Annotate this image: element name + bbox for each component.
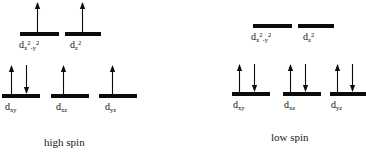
electron-arrow-up xyxy=(235,64,244,92)
orbital-label-dx2-y2: dx2-y2 xyxy=(251,32,271,45)
orbital-label-dz2: dz2 xyxy=(303,32,314,42)
orbital-label-dxz: dxz xyxy=(284,100,295,110)
orbital-label-dyz: dyz xyxy=(331,100,342,110)
electron-arrow-down xyxy=(301,64,310,92)
electron-arrow-up xyxy=(333,64,342,92)
energy-level-bar-dz2 xyxy=(298,24,334,28)
orbital-label-dxy: dxy xyxy=(233,100,245,110)
energy-level-bar-dyz xyxy=(330,92,366,96)
electron-arrow-up xyxy=(286,64,295,92)
caption-low-spin: low spin xyxy=(271,131,309,143)
electron-arrow-down xyxy=(348,64,357,92)
energy-level-bar-dxz xyxy=(283,92,321,96)
electron-arrow-down xyxy=(250,64,259,92)
energy-level-bar-dxy xyxy=(232,92,270,96)
energy-level-bar-dx2-y2 xyxy=(253,24,292,28)
